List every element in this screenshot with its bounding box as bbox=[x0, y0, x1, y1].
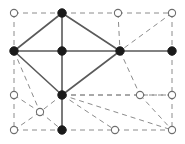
graph-node-filled[interactable] bbox=[58, 91, 66, 99]
graph-edge-dashed bbox=[62, 95, 172, 130]
graph-node-filled[interactable] bbox=[116, 47, 124, 55]
graph-edge-dashed bbox=[62, 95, 115, 130]
graph-node-open[interactable] bbox=[168, 126, 175, 133]
graph-edge-dashed bbox=[120, 51, 140, 95]
graph-node-open[interactable] bbox=[10, 126, 17, 133]
graph-node-open[interactable] bbox=[114, 9, 121, 16]
graph-node-filled[interactable] bbox=[58, 9, 66, 17]
graph-edge-dashed bbox=[14, 51, 40, 112]
graph-node-open[interactable] bbox=[168, 91, 175, 98]
graph-edge-solid bbox=[14, 51, 62, 95]
graph-edge-solid bbox=[62, 13, 120, 51]
figure-root bbox=[0, 0, 185, 144]
graph-node-open[interactable] bbox=[111, 126, 118, 133]
graph-node-filled[interactable] bbox=[58, 126, 66, 134]
graph-node-filled[interactable] bbox=[10, 47, 18, 55]
graph-edge-solid bbox=[14, 13, 62, 51]
graph-edge-dashed bbox=[140, 95, 172, 130]
graph-canvas bbox=[0, 0, 185, 144]
graph-edge-dashed bbox=[118, 13, 120, 51]
graph-node-filled[interactable] bbox=[168, 47, 176, 55]
graph-node-open[interactable] bbox=[10, 91, 17, 98]
graph-edge-dashed bbox=[120, 13, 172, 51]
graph-node-open[interactable] bbox=[136, 91, 143, 98]
graph-node-open[interactable] bbox=[168, 9, 175, 16]
graph-node-open[interactable] bbox=[10, 9, 17, 16]
graph-edge-dashed bbox=[14, 112, 40, 130]
graph-node-filled[interactable] bbox=[58, 47, 66, 55]
graph-node-open[interactable] bbox=[36, 108, 43, 115]
graph-edge-solid bbox=[62, 51, 120, 95]
